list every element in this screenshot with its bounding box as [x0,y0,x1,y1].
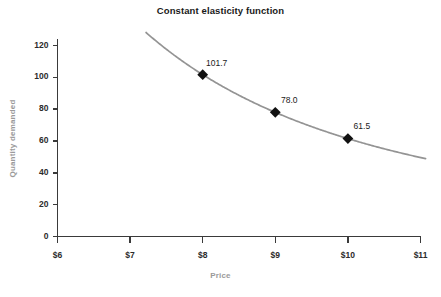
x-tick-label: $8 [183,250,223,260]
data-point-marker [270,107,281,118]
y-tick-label: 40 [15,167,49,177]
y-tick-label: 80 [15,103,49,113]
y-tick-label: 120 [15,40,49,50]
data-point-label: 78.0 [268,95,310,105]
axes [53,39,421,243]
y-tick-label: 0 [15,231,49,241]
x-tick-label: $6 [38,250,78,260]
data-point-marker [197,69,208,80]
data-point-label: 101.7 [196,58,238,68]
chart-container: Constant elasticity function Quantity de… [0,0,441,297]
data-point-label: 61.5 [341,121,383,131]
y-tick-label: 100 [15,71,49,81]
x-tick-label: $10 [328,250,368,260]
y-tick-label: 60 [15,135,49,145]
x-tick-label: $7 [110,250,150,260]
data-point-marker [343,133,354,144]
x-tick-label: $9 [255,250,295,260]
x-tick-label: $11 [401,250,441,260]
y-tick-label: 20 [15,199,49,209]
